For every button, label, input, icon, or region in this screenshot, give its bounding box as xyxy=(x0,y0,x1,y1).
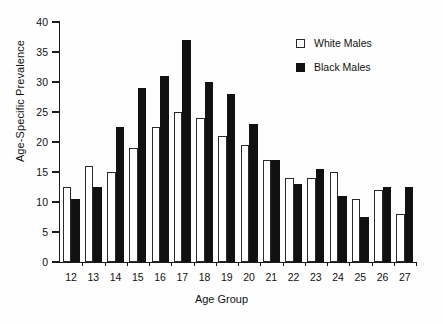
bar-black-males-23 xyxy=(316,169,325,262)
bar-black-males-21 xyxy=(271,160,280,262)
bar-white-males-24 xyxy=(330,172,339,262)
x-tick-26 xyxy=(394,262,395,266)
x-tick-19 xyxy=(238,262,239,266)
bar-white-males-13 xyxy=(85,166,94,262)
chart-legend: White MalesBlack Males xyxy=(296,38,372,86)
bar-white-males-20 xyxy=(241,145,250,262)
bar-white-males-23 xyxy=(307,178,316,262)
y-tick-label-0: 0 xyxy=(0,257,48,268)
bar-black-males-25 xyxy=(360,217,369,262)
bar-white-males-25 xyxy=(352,199,361,262)
legend-label: Black Males xyxy=(314,62,371,73)
bar-black-males-19 xyxy=(227,94,236,262)
x-tick-12 xyxy=(82,262,83,266)
bar-black-males-24 xyxy=(338,196,347,262)
legend-item-white-males[interactable]: White Males xyxy=(296,38,372,49)
open-square-icon xyxy=(296,39,305,48)
y-tick-40 xyxy=(52,21,60,22)
y-tick-35 xyxy=(52,51,60,52)
legend-label: White Males xyxy=(314,38,372,49)
x-tick-15 xyxy=(149,262,150,266)
y-tick-0 xyxy=(52,261,60,262)
bar-white-males-21 xyxy=(263,160,272,262)
bar-black-males-20 xyxy=(249,124,258,262)
filled-square-icon xyxy=(296,63,305,72)
x-tick-16 xyxy=(171,262,172,266)
y-tick-15 xyxy=(52,171,60,172)
bar-black-males-14 xyxy=(116,127,125,262)
x-tick-22 xyxy=(305,262,306,266)
bar-white-males-18 xyxy=(196,118,205,262)
x-tick-label-27: 27 xyxy=(390,272,420,283)
bar-chart: 0510152025303540 12131415161718192021222… xyxy=(0,0,443,324)
bar-white-males-15 xyxy=(129,148,138,262)
bar-white-males-14 xyxy=(107,172,116,262)
bar-white-males-19 xyxy=(218,136,227,262)
bar-black-males-26 xyxy=(383,187,392,262)
bar-white-males-26 xyxy=(374,190,383,262)
bar-black-males-15 xyxy=(138,88,147,262)
x-tick-25 xyxy=(372,262,373,266)
bar-black-males-18 xyxy=(205,82,214,262)
y-tick-5 xyxy=(52,231,60,232)
y-tick-10 xyxy=(52,201,60,202)
y-tick-20 xyxy=(52,141,60,142)
x-tick-13 xyxy=(105,262,106,266)
bar-black-males-13 xyxy=(93,187,102,262)
y-tick-30 xyxy=(52,81,60,82)
bar-white-males-17 xyxy=(174,112,183,262)
bar-black-males-22 xyxy=(294,184,303,262)
bar-black-males-16 xyxy=(160,76,169,262)
y-axis-title: Age-Specific Prevalence xyxy=(14,1,26,201)
x-tick-24 xyxy=(349,262,350,266)
x-tick-23 xyxy=(327,262,328,266)
bar-black-males-17 xyxy=(182,40,191,262)
bar-white-males-22 xyxy=(285,178,294,262)
y-tick-label-5: 5 xyxy=(0,227,48,238)
y-tick-25 xyxy=(52,111,60,112)
x-tick-18 xyxy=(216,262,217,266)
bar-black-males-27 xyxy=(405,187,414,262)
bar-black-males-12 xyxy=(71,199,80,262)
bar-white-males-16 xyxy=(152,127,161,262)
x-tick-17 xyxy=(194,262,195,266)
x-tick-20 xyxy=(260,262,261,266)
bar-white-males-12 xyxy=(63,187,72,262)
bar-white-males-27 xyxy=(396,214,405,262)
legend-item-black-males[interactable]: Black Males xyxy=(296,62,372,73)
x-axis-title: Age Group xyxy=(0,293,443,305)
x-tick-27 xyxy=(416,262,417,266)
x-tick-21 xyxy=(283,262,284,266)
x-tick-14 xyxy=(127,262,128,266)
